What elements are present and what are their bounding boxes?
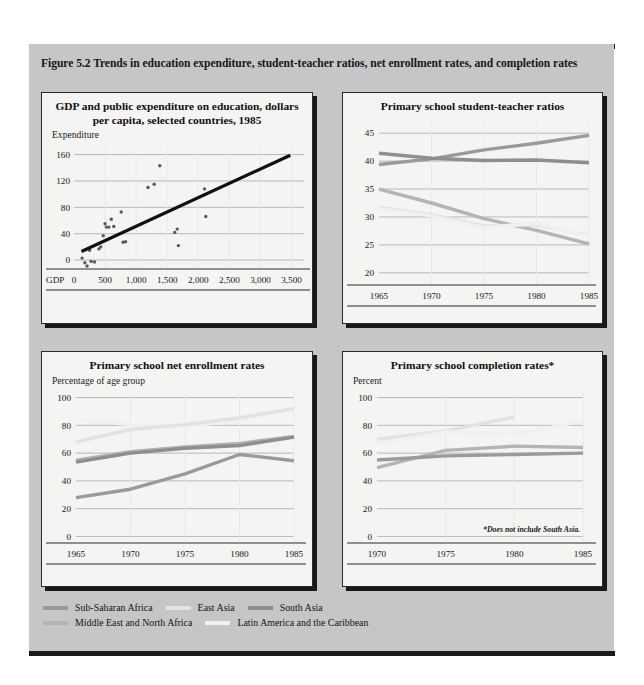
y-tick-label: 0 [65,255,70,265]
y-tick-label: 60 [62,448,72,458]
scatter-point [110,218,113,221]
y-axis-label-gdp-expenditure: Expenditure [42,127,312,140]
legend-item-middle-east-and-north-africa: Middle East and North Africa [43,617,192,629]
plot-area-completion-rates: 0204060801001970197519801985*Does not in… [343,386,602,572]
y-tick-label: 100 [358,392,372,402]
x-tick-label: 1965 [67,549,86,559]
x-tick-label: 1,500 [157,275,178,285]
chart-annotation: *Does not include South Asia. [483,525,580,534]
plot-area-gdp-expenditure: 04080120160GDP05001,0001,5002,0002,5003,… [42,140,312,298]
x-tick-label: 0 [72,275,77,285]
scatter-point [93,260,96,263]
figure-caption: Figure 5.2 Trends in education expenditu… [41,57,607,71]
legend-label-east-asia: East Asia [198,602,235,614]
figure-panel: Figure 5.2 Trends in education expenditu… [29,44,614,656]
legend-label-latin-america-and-the-caribbean: Latin America and the Caribbean [237,617,368,629]
legend-row: Middle East and North Africa Latin Ameri… [43,615,599,630]
legend-swatch-middle-east-and-north-africa [43,621,68,625]
scatter-point [152,183,155,186]
legend-item-latin-america-and-the-caribbean: Latin America and the Caribbean [205,617,368,629]
line-plot-completion-rates: 0204060801001970197519801985*Does not in… [343,386,602,572]
scatter-point [89,260,92,263]
y-tick-label: 100 [57,392,71,402]
x-tick-label: 1975 [436,549,455,559]
chart-card-net-enrollment-rates: Primary school net enrollment rates Perc… [41,351,313,587]
y-axis-label-net-enrollment-rates: Percentage of age group [42,373,312,386]
y-tick-label: 60 [363,448,373,458]
x-tick-label: 1,000 [126,275,147,285]
scatter-point [107,225,110,228]
x-tick-label: 1985 [580,291,599,301]
chart-card-student-teacher-ratios: Primary school student-teacher ratios 20… [342,92,603,324]
scatter-point [158,164,161,167]
scatter-point [102,234,105,237]
y-tick-label: 20 [62,503,72,513]
y-tick-label: 25 [365,240,375,250]
x-tick-label: 500 [98,275,112,285]
y-tick-label: 45 [365,128,375,138]
scatter-point [120,210,123,213]
scatter-point [124,240,127,243]
x-tick-label: 1975 [176,549,195,559]
chart-title-student-teacher-ratios: Primary school student-teacher ratios [343,93,602,114]
legend-swatch-latin-america-and-the-caribbean [205,621,230,625]
legend-row: Sub-Saharan Africa East Asia South Asia [43,600,599,615]
chart-title-net-enrollment-rates: Primary school net enrollment rates [42,352,312,373]
legend-item-sub-saharan-africa: Sub-Saharan Africa [43,602,153,614]
legend-label-middle-east-and-north-africa: Middle East and North Africa [75,617,192,629]
legend-swatch-sub-saharan-africa [43,606,68,610]
scatter-point [177,244,180,247]
x-tick-label: 1985 [574,549,593,559]
legend-item-south-asia: South Asia [248,602,323,614]
scatter-point [203,187,206,190]
scatter-point [99,245,102,248]
legend-label-sub-saharan-africa: Sub-Saharan Africa [75,602,153,614]
scatter-point [173,231,176,234]
chart-title-completion-rates: Primary school completion rates* [343,352,602,373]
scatter-point [204,215,207,218]
chart-title-gdp-expenditure: GDP and public expenditure on education,… [42,93,312,127]
x-tick-label: 2,500 [219,275,240,285]
y-tick-label: 0 [367,531,372,541]
x-tick-label: 1980 [505,549,524,559]
y-tick-label: 40 [61,229,71,239]
x-tick-label: 2,000 [188,275,209,285]
plot-area-net-enrollment-rates: 02040608010019651970197519801985 [42,386,312,572]
scatter-point [80,256,83,259]
y-tick-label: 40 [365,156,375,166]
y-tick-label: 40 [62,476,72,486]
scatter-point [83,261,86,264]
y-tick-label: 35 [365,184,375,194]
scatter-point [103,222,106,225]
scatter-point [146,186,149,189]
plot-area-student-teacher-ratios: 20253035404519651970197519801985 [343,114,602,314]
scatter-plot-gdp-expenditure: 04080120160GDP05001,0001,5002,0002,5003,… [42,140,312,298]
y-tick-label: 80 [62,420,72,430]
y-tick-label: 160 [56,150,70,160]
x-axis-label: GDP [46,275,64,285]
y-tick-label: 80 [61,203,71,213]
x-tick-label: 1970 [422,291,441,301]
y-axis-label-completion-rates: Percent [343,373,602,386]
y-tick-label: 30 [365,212,375,222]
x-tick-label: 3,500 [281,275,302,285]
y-tick-label: 40 [363,476,373,486]
chart-card-gdp-expenditure: GDP and public expenditure on education,… [41,92,313,324]
y-tick-label: 0 [66,531,71,541]
y-tick-label: 20 [365,268,375,278]
legend-swatch-east-asia [166,606,191,610]
plot-background [377,392,583,542]
line-plot-student-teacher-ratios: 20253035404519651970197519801985 [343,114,602,314]
x-tick-label: 1965 [370,291,389,301]
chart-legend: Sub-Saharan Africa East Asia South Asia … [43,600,599,630]
figure-bottom-rule [29,651,615,656]
x-tick-label: 1980 [527,291,546,301]
scatter-point [85,264,88,267]
legend-item-east-asia: East Asia [166,602,235,614]
x-tick-label: 1985 [285,549,304,559]
x-tick-label: 1975 [475,291,494,301]
chart-card-completion-rates: Primary school completion rates* Percent… [342,351,603,587]
y-tick-label: 120 [56,176,70,186]
scatter-point [112,225,115,228]
line-plot-net-enrollment-rates: 02040608010019651970197519801985 [42,386,312,572]
